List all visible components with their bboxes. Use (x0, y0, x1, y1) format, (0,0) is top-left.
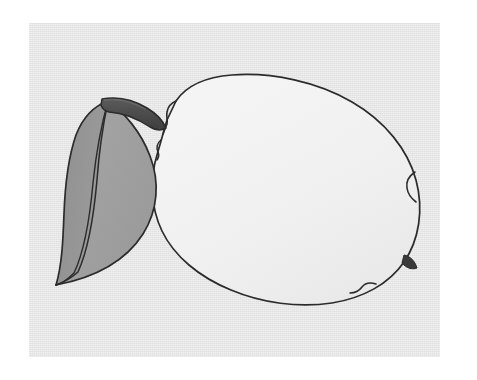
lemon-fruit (152, 74, 420, 304)
artboard (0, 0, 477, 380)
lemon-leaf (56, 101, 156, 285)
lemon-blossom-tip (402, 255, 417, 269)
lemon-body-shape (152, 74, 420, 304)
lemon-illustration (0, 0, 477, 380)
